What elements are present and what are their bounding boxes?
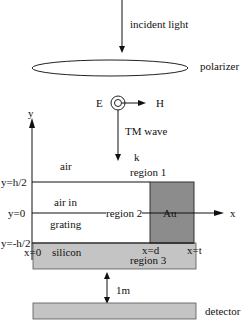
region1-label: region 1: [130, 166, 166, 178]
distance-label: 1m: [116, 284, 130, 296]
grating-label: grating: [50, 218, 81, 230]
e-field-inner-circle-icon: [115, 100, 122, 107]
y-axis-label: y: [28, 107, 34, 119]
x-t-label: x=t: [187, 244, 202, 256]
incident-light-label: incident light: [130, 18, 188, 30]
air-in-label: air in: [54, 196, 77, 208]
region3-label: region 3: [130, 254, 166, 266]
incident-arrowhead-icon: [119, 46, 125, 53]
k-arrowhead-icon: [115, 154, 121, 161]
polarizer-label: polarizer: [200, 60, 239, 72]
x-axis-arrowhead-icon: [214, 210, 224, 216]
y-zero-label: y=0: [8, 207, 25, 219]
y-top-label: y=h/2: [1, 176, 27, 188]
detector-label: detector: [205, 305, 240, 317]
au-label: Au: [163, 207, 176, 219]
h-arrowhead-icon: [138, 100, 146, 106]
polarizer-ellipse: [32, 60, 188, 76]
k-vector-label: k: [134, 151, 140, 163]
y-axis-arrowhead-icon: [29, 118, 35, 128]
region2-label: region 2: [106, 207, 142, 219]
x-zero-label: x=0: [24, 246, 41, 258]
tm-wave-label: TM wave: [125, 125, 167, 137]
x-axis-label: x: [230, 207, 236, 219]
distance-arrowhead-up-icon: [104, 272, 110, 279]
silicon-label: silicon: [52, 246, 81, 258]
detector-bar: [33, 303, 196, 319]
diagram-canvas: [0, 0, 251, 328]
e-field-label: E: [96, 97, 103, 109]
air-label: air: [60, 160, 72, 172]
h-field-label: H: [156, 97, 164, 109]
